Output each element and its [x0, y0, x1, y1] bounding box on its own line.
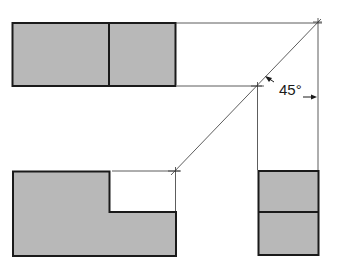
arrowhead-right-icon — [311, 95, 317, 100]
top-view-outline — [13, 23, 176, 86]
angle-indicator: 45° — [265, 76, 317, 100]
angle-label: 45° — [279, 81, 302, 98]
arrowhead-left-icon — [265, 76, 272, 82]
front-view-outline — [13, 172, 176, 257]
projection-diagram: 45° — [0, 0, 337, 266]
front-view — [13, 172, 176, 257]
top-view — [13, 23, 176, 86]
side-view — [259, 171, 319, 255]
